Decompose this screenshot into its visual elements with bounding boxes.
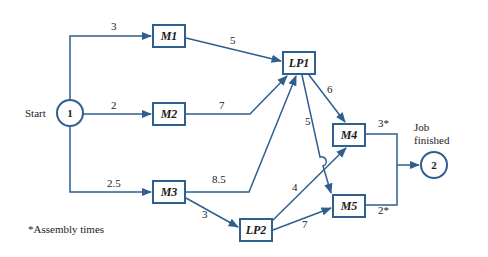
edge-m3-to-lp2 [186, 198, 238, 227]
edge-label-m3-lp1: 8.5 [212, 173, 226, 185]
node-1: 1 [57, 100, 83, 126]
node-lp1: LP1 [283, 52, 315, 74]
edges [70, 36, 419, 230]
edge-1-to-m1 [70, 36, 151, 99]
edge-label-m2-lp1: 7 [219, 99, 225, 111]
node-lp2-label: LP2 [245, 223, 267, 237]
node-2: 2 [421, 152, 447, 178]
node-m1: M1 [153, 25, 185, 47]
activity-network-diagram: 3 2 2.5 5 7 8.5 3 6 5 4 7 3* 2* 1 M1 M2 … [0, 0, 488, 257]
node-m3-label: M3 [160, 185, 178, 199]
footnote-assembly-times: *Assembly times [28, 223, 104, 235]
edge-m3-to-lp1 [186, 76, 296, 192]
edge-label-lp2-m4: 4 [292, 181, 298, 193]
edge-label-lp2-m5: 7 [302, 218, 308, 230]
job-finished-label-line1: Job [414, 121, 430, 133]
node-m5: M5 [333, 195, 365, 217]
node-m1-label: M1 [160, 29, 178, 43]
edge-m2-to-lp1 [186, 76, 287, 114]
node-2-label: 2 [431, 159, 437, 171]
edge-label-1-m1: 3 [111, 20, 117, 32]
edge-label-1-m3: 2.5 [107, 177, 121, 189]
node-1-label: 1 [67, 107, 73, 119]
edge-label-m5-2: 2* [378, 204, 389, 216]
node-m2-label: M2 [160, 107, 178, 121]
node-m2: M2 [153, 103, 185, 125]
edge-label-1-m2: 2 [111, 99, 117, 111]
node-lp2: LP2 [240, 219, 272, 241]
edge-m4-to-2 [366, 134, 397, 205]
node-m4: M4 [333, 124, 365, 146]
edge-label-lp1-m5: 5 [305, 115, 311, 127]
edge-label-m4-2: 3* [378, 117, 389, 129]
start-label: Start [25, 107, 46, 119]
node-m5-label: M5 [340, 199, 358, 213]
node-lp1-label: LP1 [288, 56, 310, 70]
edge-label-lp1-m4: 6 [327, 83, 333, 95]
node-m4-label: M4 [340, 128, 358, 142]
edge-label-m3-lp2: 3 [202, 208, 208, 220]
job-finished-label-line2: finished [414, 134, 450, 146]
edge-label-m1-lp1: 5 [230, 34, 236, 46]
node-m3: M3 [153, 181, 185, 203]
